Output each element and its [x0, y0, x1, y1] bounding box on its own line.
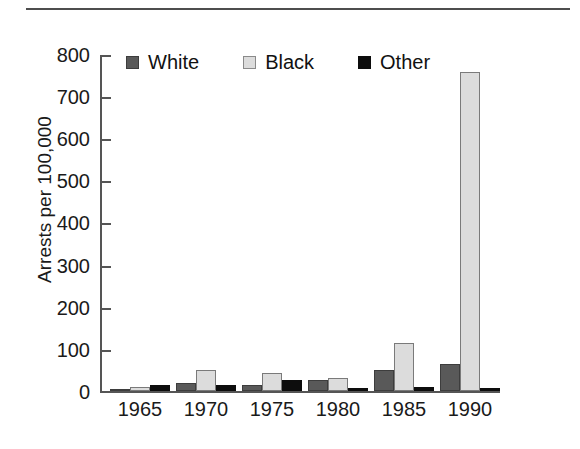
bar-white-1975 [242, 385, 262, 391]
x-tick-label-1975: 1975 [237, 398, 307, 420]
bar-other-1980 [348, 388, 368, 391]
bar-group-1990 [440, 55, 500, 391]
bar-other-1985 [414, 387, 434, 391]
bar-white-1965 [110, 389, 130, 391]
bar-group-1985 [374, 55, 434, 391]
bar-chart-figure: 800 700 600 500 400 300 200 100 0 Arrest… [0, 0, 580, 449]
bar-black-1975 [262, 373, 282, 391]
bar-other-1970 [216, 385, 236, 391]
bar-group-1965 [110, 55, 170, 391]
bar-group-1980 [308, 55, 368, 391]
x-tick-label-1970: 1970 [171, 398, 241, 420]
bar-white-1985 [374, 370, 394, 391]
top-horizontal-rule [26, 8, 570, 10]
bar-black-1985 [394, 343, 414, 391]
y-tick-label: 0 [34, 382, 90, 402]
bar-white-1980 [308, 380, 328, 391]
x-tick-label-1965: 1965 [105, 398, 175, 420]
bar-other-1975 [282, 380, 302, 391]
x-tick-label-1980: 1980 [303, 398, 373, 420]
bar-other-1990 [480, 388, 500, 391]
y-tick-label: 100 [34, 340, 90, 360]
bar-white-1990 [440, 364, 460, 391]
bar-black-1990 [460, 72, 480, 391]
x-tick-label-1990: 1990 [435, 398, 505, 420]
y-tick-label: 800 [34, 45, 90, 65]
bar-group-1975 [242, 55, 302, 391]
bar-other-1965 [150, 385, 170, 391]
bar-black-1980 [328, 378, 348, 391]
x-tick-label-1985: 1985 [369, 398, 439, 420]
x-axis-line [100, 391, 500, 393]
bar-group-1970 [176, 55, 236, 391]
bar-black-1970 [196, 370, 216, 391]
bar-white-1970 [176, 383, 196, 391]
y-axis-title: Arrests per 100,000 [35, 80, 54, 320]
bar-black-1965 [130, 387, 150, 391]
